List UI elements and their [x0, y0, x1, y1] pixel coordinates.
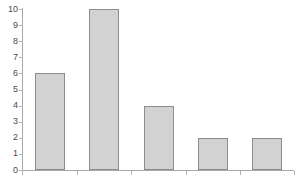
x-axis-tick-mark — [186, 171, 187, 175]
y-axis-tick-mark — [19, 154, 23, 155]
bar — [144, 106, 174, 170]
bar — [35, 73, 65, 170]
bar — [252, 138, 282, 170]
x-axis-tick-mark — [131, 171, 132, 175]
y-axis-tick-mark — [19, 90, 23, 91]
y-axis-tick-mark — [19, 57, 23, 58]
y-axis-tick-mark — [19, 41, 23, 42]
x-axis-tick-mark — [240, 171, 241, 175]
plot-area — [0, 0, 296, 177]
bar-chart: 012345678910 — [0, 0, 296, 177]
x-axis-tick-mark — [22, 171, 23, 175]
bar — [89, 9, 119, 170]
y-axis-tick-mark — [19, 106, 23, 107]
y-axis-tick-mark — [19, 73, 23, 74]
y-axis-tick-mark — [19, 9, 23, 10]
y-axis-tick-mark — [19, 25, 23, 26]
y-axis-tick-mark — [19, 138, 23, 139]
x-axis-tick-mark — [294, 171, 295, 175]
y-axis-tick-mark — [19, 122, 23, 123]
x-axis-tick-mark — [77, 171, 78, 175]
bar — [198, 138, 228, 170]
